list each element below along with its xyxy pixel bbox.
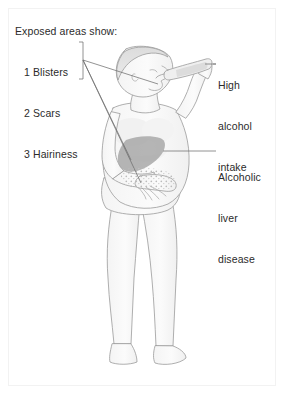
- legend-item-blisters: 1 Blisters: [24, 66, 78, 80]
- callout-line-3: disease: [218, 253, 261, 267]
- callout-line-2: liver: [218, 212, 261, 226]
- callout-line-1: Alcoholic: [218, 171, 261, 185]
- right-leg: [141, 200, 177, 346]
- body-figure: [102, 46, 212, 364]
- legend-list: 1 Blisters 2 Scars 3 Hairiness: [24, 39, 78, 189]
- legend-item-hairiness: 3 Hairiness: [24, 148, 78, 162]
- callout-line-2: alcohol: [218, 120, 252, 134]
- left-leg: [107, 200, 140, 344]
- legend-item-scars: 2 Scars: [24, 107, 78, 121]
- right-foot: [154, 346, 187, 364]
- legend-bracket: [79, 42, 83, 79]
- legend-title: Exposed areas show:: [15, 25, 117, 39]
- illustration-canvas: Exposed areas show: 1 Blisters 2 Scars 3…: [0, 0, 285, 395]
- callout-line-1: High: [218, 79, 252, 93]
- callout-alcoholic-liver-disease: Alcoholic liver disease: [218, 144, 261, 294]
- left-foot: [110, 344, 137, 364]
